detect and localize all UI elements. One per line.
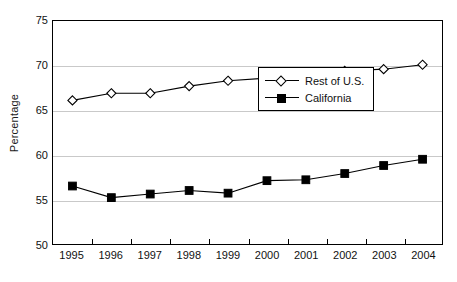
data-point-filled-square bbox=[419, 155, 427, 163]
x-axis-tick-label: 1998 bbox=[177, 249, 201, 261]
y-axis-tick-label: 65 bbox=[26, 104, 48, 116]
data-point-open-diamond bbox=[185, 82, 194, 91]
filled-square-marker-icon bbox=[265, 91, 299, 105]
x-axis-tick-label: 2000 bbox=[255, 249, 279, 261]
y-axis-tick-label: 60 bbox=[26, 149, 48, 161]
data-point-filled-square bbox=[107, 194, 115, 202]
legend-item-rest-of-us[interactable]: Rest of U.S. bbox=[265, 72, 364, 89]
y-axis-tick-label: 75 bbox=[26, 14, 48, 26]
legend-label: Rest of U.S. bbox=[299, 75, 364, 87]
series-line bbox=[72, 159, 422, 197]
data-point-filled-square bbox=[224, 189, 232, 197]
data-point-open-diamond bbox=[68, 96, 77, 105]
data-point-filled-square bbox=[69, 182, 77, 190]
data-point-filled-square bbox=[341, 170, 349, 178]
y-axis-title-text: Percentage bbox=[8, 93, 20, 151]
chart-legend: Rest of U.S. California bbox=[258, 67, 374, 111]
data-point-filled-square bbox=[263, 177, 271, 185]
x-axis-tick-label: 2003 bbox=[372, 249, 396, 261]
data-point-filled-square bbox=[185, 187, 193, 195]
data-point-open-diamond bbox=[146, 89, 155, 98]
x-axis-tick-label: 2001 bbox=[294, 249, 318, 261]
data-point-open-diamond bbox=[107, 89, 116, 98]
x-axis-tick-label: 1997 bbox=[138, 249, 162, 261]
x-axis-tick-labels: 1995199619971998199920002001200220032004 bbox=[0, 249, 457, 269]
open-diamond-marker-icon bbox=[265, 74, 299, 88]
x-axis-tick-label: 1999 bbox=[216, 249, 240, 261]
data-point-filled-square bbox=[302, 176, 310, 184]
data-point-open-diamond bbox=[379, 65, 388, 74]
legend-label: California bbox=[299, 92, 351, 104]
y-axis-tick-label: 55 bbox=[26, 194, 48, 206]
data-point-filled-square bbox=[146, 190, 154, 198]
x-axis-tick-label: 2004 bbox=[411, 249, 435, 261]
y-axis-tick-label: 70 bbox=[26, 59, 48, 71]
legend-item-california[interactable]: California bbox=[265, 89, 364, 106]
series-california bbox=[69, 155, 427, 201]
y-axis-title: Percentage bbox=[2, 0, 26, 245]
plot-area bbox=[52, 20, 443, 245]
data-point-open-diamond bbox=[418, 60, 427, 69]
x-axis-tick-label: 2002 bbox=[333, 249, 357, 261]
data-point-filled-square bbox=[380, 162, 388, 170]
chart-figure: Percentage 505560657075 1995199619971998… bbox=[0, 0, 457, 282]
x-axis-tick-label: 1995 bbox=[59, 249, 83, 261]
series-layer bbox=[53, 21, 442, 244]
x-axis-tick-label: 1996 bbox=[98, 249, 122, 261]
data-point-open-diamond bbox=[223, 76, 232, 85]
y-axis-tick-labels: 505560657075 bbox=[24, 0, 48, 282]
